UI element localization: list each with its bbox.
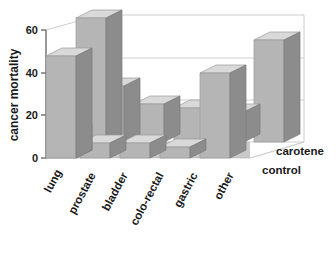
y-axis: 60 40 20 0 cancer mortality bbox=[7, 24, 46, 164]
bar-carotene-lung bbox=[46, 48, 92, 158]
bar-control-other bbox=[254, 32, 300, 142]
bar-side bbox=[284, 32, 300, 142]
legend-label-carotene: carotene bbox=[276, 145, 324, 157]
bar-carotene-other bbox=[200, 65, 246, 158]
category-label-gastric: gastric bbox=[171, 170, 200, 209]
y-tick-label-20: 20 bbox=[26, 109, 38, 121]
y-axis-title: cancer mortality bbox=[7, 48, 21, 141]
bar-side bbox=[106, 10, 122, 142]
category-label-prostate: prostate bbox=[66, 170, 98, 216]
bar-side bbox=[164, 96, 180, 142]
x-axis-labels: lung prostate bladder colo-rectal gastri… bbox=[42, 167, 236, 227]
y-tick-label-60: 60 bbox=[26, 24, 38, 36]
legend-label-control: control bbox=[262, 164, 301, 176]
category-label-colo-rectal: colo-rectal bbox=[128, 170, 166, 227]
bar-side bbox=[230, 65, 246, 158]
category-label-lung: lung bbox=[42, 167, 64, 194]
category-label-other: other bbox=[212, 170, 236, 201]
y-tick-label-40: 40 bbox=[26, 67, 38, 79]
cancer-mortality-3d-bar-chart: 60 40 20 0 cancer mortality bbox=[0, 0, 336, 253]
chart-canvas: 60 40 20 0 cancer mortality bbox=[0, 0, 336, 253]
category-label-bladder: bladder bbox=[100, 170, 130, 213]
bar-side bbox=[124, 78, 140, 142]
y-tick-label-0: 0 bbox=[32, 152, 38, 164]
bar-side bbox=[76, 48, 92, 158]
bar-front bbox=[46, 56, 76, 158]
